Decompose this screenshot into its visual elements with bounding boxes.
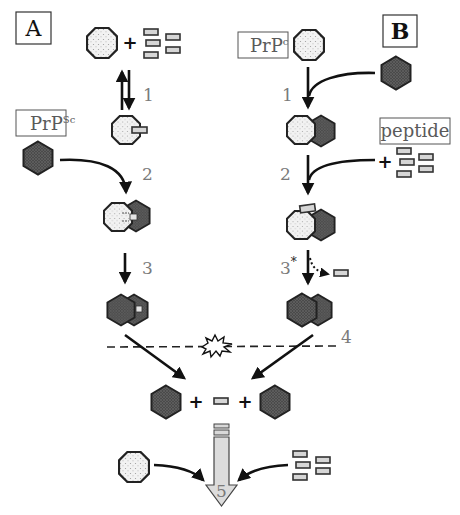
step-a1-label: 1 <box>143 85 154 105</box>
prpc-prpsc-peptide-complex-icon <box>287 204 335 241</box>
panel-a-label-box: A <box>16 12 51 44</box>
equilibrium-arrows-icon <box>122 70 129 110</box>
peptide-cluster-icon <box>293 451 330 480</box>
prpc-octagon-icon <box>119 452 149 482</box>
prpsc-label-box: PrPSc <box>16 110 76 136</box>
step-a3-label: 3 <box>142 258 153 278</box>
released-peptide-icon <box>334 270 348 276</box>
prpc-prpsc-peptide-complex-icon <box>104 201 150 232</box>
step-b3-label: 3* <box>280 255 297 278</box>
released-peptide-icon <box>214 398 228 404</box>
panel-b-label-box: B <box>383 15 417 47</box>
prpsc-monomer-right-icon <box>261 386 290 419</box>
panel-b-label: B <box>391 18 410 44</box>
plus-sign: + <box>122 32 137 53</box>
fragment-arrow-left <box>125 335 184 378</box>
peptide-label-box: peptide <box>380 118 450 144</box>
peptide-cluster-icon <box>397 148 433 177</box>
prpc-octagon-icon <box>294 30 324 60</box>
prpc-prpsc-complex-icon <box>287 116 335 147</box>
step-5-label: 5 <box>216 481 227 501</box>
step-a2-label: 2 <box>142 164 153 184</box>
prpsc-join-arrow <box>60 160 126 192</box>
prpc-label-box: PrPc <box>238 32 289 58</box>
panel-a-label: A <box>25 16 43 41</box>
prpsc-dimer-with-peptide-icon <box>107 295 147 326</box>
plus-sign: + <box>377 151 392 172</box>
prpsc-label: PrPSc <box>30 113 76 134</box>
peptide-feed-arrow <box>239 465 288 480</box>
peptide-cluster-icon <box>144 29 180 58</box>
plus-sign: + <box>237 391 252 412</box>
peptide-release-arrow <box>310 258 328 274</box>
peptide-join-arrow <box>309 160 375 180</box>
step-b2-label: 2 <box>280 164 291 184</box>
prpsc-hexagon-icon <box>24 142 53 175</box>
prpsc-monomer-left-icon <box>152 386 181 419</box>
peptide-label: peptide <box>381 120 450 141</box>
prpc-octagon-icon <box>87 28 117 58</box>
prpsc-hexagon-icon <box>382 57 411 90</box>
fragment-arrow-right <box>253 335 313 378</box>
starburst-icon <box>202 335 232 357</box>
step-b1-label: 1 <box>282 85 293 105</box>
prion-conversion-diagram: A B + 1 PrPSc 2 3 <box>0 0 460 515</box>
prpc-feed-arrow <box>154 465 203 480</box>
prpsc-dimer-icon <box>288 294 332 327</box>
plus-sign: + <box>188 391 203 412</box>
bound-peptide-icon <box>132 127 147 133</box>
prpsc-join-arrow <box>309 73 375 96</box>
step-4-label: 4 <box>341 327 352 347</box>
